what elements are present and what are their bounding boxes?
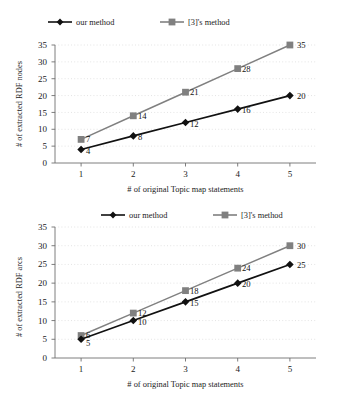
chart-0-series-ref3 bbox=[78, 42, 294, 143]
ytick-4: 20 bbox=[38, 91, 48, 101]
legend-square-icon bbox=[169, 19, 176, 26]
chart-0-xtick-labels: 1 2 3 4 5 bbox=[79, 169, 293, 179]
legend-label-our-method: our method bbox=[76, 18, 115, 27]
ytick-7: 35 bbox=[38, 222, 48, 232]
data-label-our: 15 bbox=[190, 298, 199, 308]
series-point-our bbox=[234, 105, 242, 113]
xtick-3: 4 bbox=[235, 169, 240, 179]
ytick-0: 0 bbox=[43, 353, 48, 363]
chart-1-xtick-labels: 1 2 3 4 5 bbox=[79, 364, 293, 374]
legend-label-our-method: our method bbox=[129, 211, 168, 220]
chart-0-series-our bbox=[77, 92, 293, 154]
xtick-2: 3 bbox=[183, 364, 188, 374]
chart-1-ytick-labels: 0 5 10 15 20 25 30 35 bbox=[38, 222, 48, 363]
chart-1-gridlines bbox=[55, 227, 316, 339]
ytick-4: 20 bbox=[38, 278, 48, 288]
data-label-ref3: 18 bbox=[190, 286, 199, 296]
ytick-7: 35 bbox=[38, 40, 48, 50]
series-point-our bbox=[286, 92, 294, 100]
data-label-ref3: 24 bbox=[242, 263, 251, 273]
legend-square-icon bbox=[222, 212, 229, 219]
series-point-our bbox=[182, 119, 190, 127]
figure-stack: our method [3]'s method bbox=[0, 0, 351, 410]
data-label-our: 8 bbox=[138, 132, 142, 142]
ytick-3: 15 bbox=[38, 108, 48, 118]
data-label-our: 10 bbox=[138, 317, 147, 327]
xtick-4: 5 bbox=[288, 169, 293, 179]
data-label-ref3: 14 bbox=[138, 111, 147, 121]
chart-0-axes bbox=[52, 45, 317, 167]
series-point-our bbox=[182, 298, 190, 306]
chart-1-axes bbox=[52, 227, 317, 362]
ytick-5: 25 bbox=[38, 74, 48, 84]
data-label-our: 16 bbox=[242, 105, 251, 115]
chart-0-data-labels: 7 14 21 28 35 4 8 12 16 20 bbox=[86, 40, 306, 156]
data-label-our: 5 bbox=[86, 338, 90, 348]
series-point-ref3 bbox=[287, 42, 294, 49]
series-point-ref3 bbox=[130, 310, 137, 317]
ytick-5: 25 bbox=[38, 259, 48, 269]
chart-1-xaxis-title: # of original Topic map statements bbox=[127, 380, 243, 389]
chart-0-legend: our method [3]'s method bbox=[48, 18, 231, 27]
series-point-ref3 bbox=[182, 287, 189, 294]
legend-diamond-icon bbox=[110, 211, 117, 218]
ytick-2: 10 bbox=[38, 316, 48, 326]
xtick-0: 1 bbox=[79, 169, 84, 179]
xtick-4: 5 bbox=[288, 364, 293, 374]
xtick-0: 1 bbox=[79, 364, 84, 374]
chart-0-ytick-labels: 0 5 10 15 20 25 30 35 bbox=[38, 40, 48, 168]
legend-label-ref3-method: [3]'s method bbox=[188, 18, 231, 27]
chart-1-legend: our method [3]'s method bbox=[101, 211, 284, 220]
legend-diamond-icon bbox=[57, 18, 64, 25]
series-point-our bbox=[130, 317, 138, 325]
series-point-ref3 bbox=[130, 112, 137, 119]
ytick-6: 30 bbox=[38, 57, 48, 67]
xtick-1: 2 bbox=[131, 169, 136, 179]
chart-1-yaxis-title: # of extracted RDF arcs bbox=[15, 257, 24, 337]
data-label-our: 12 bbox=[190, 119, 199, 129]
series-point-ref3 bbox=[182, 89, 189, 96]
data-label-our: 20 bbox=[297, 91, 306, 101]
chart-1-series-ref3 bbox=[78, 242, 294, 339]
data-label-ref3: 21 bbox=[190, 87, 199, 97]
series-point-ref3 bbox=[78, 136, 85, 143]
xtick-3: 4 bbox=[235, 364, 240, 374]
ytick-1: 5 bbox=[43, 141, 48, 151]
ytick-0: 0 bbox=[43, 158, 48, 168]
ytick-1: 5 bbox=[43, 334, 48, 344]
chart-extracted-rdf-arcs: 0 5 10 15 20 25 30 35 1 2 3 4 5 ou bbox=[0, 205, 351, 403]
data-label-our: 25 bbox=[297, 260, 306, 270]
chart-1-canvas: 0 5 10 15 20 25 30 35 1 2 3 4 5 ou bbox=[0, 205, 351, 403]
series-point-our bbox=[77, 146, 85, 154]
series-point-ref3 bbox=[234, 265, 241, 272]
chart-0-canvas: our method [3]'s method bbox=[0, 0, 351, 200]
ytick-6: 30 bbox=[38, 241, 48, 251]
data-label-our: 4 bbox=[86, 146, 91, 156]
series-point-our bbox=[286, 261, 294, 269]
data-label-ref3: 28 bbox=[242, 64, 251, 74]
ytick-3: 15 bbox=[38, 297, 48, 307]
series-point-ref3 bbox=[287, 242, 294, 249]
xtick-1: 2 bbox=[131, 364, 136, 374]
data-label-ref3: 30 bbox=[297, 241, 306, 251]
chart-1-data-labels: 6 12 18 24 30 5 10 15 20 25 bbox=[86, 241, 306, 349]
series-point-our bbox=[130, 132, 138, 140]
data-label-ref3: 7 bbox=[86, 134, 91, 144]
xtick-2: 3 bbox=[183, 169, 188, 179]
legend-label-ref3-method: [3]'s method bbox=[241, 211, 284, 220]
chart-0-xaxis-title: # of original Topic map statements bbox=[127, 185, 243, 194]
series-point-ref3 bbox=[234, 65, 241, 72]
ytick-2: 10 bbox=[38, 124, 48, 134]
chart-extracted-rdf-nodes: our method [3]'s method bbox=[0, 0, 351, 200]
data-label-ref3: 35 bbox=[297, 40, 306, 50]
chart-0-yaxis-title: # of extracted RDF nodes bbox=[15, 61, 24, 147]
series-point-our bbox=[234, 279, 242, 287]
data-label-our: 20 bbox=[242, 279, 251, 289]
